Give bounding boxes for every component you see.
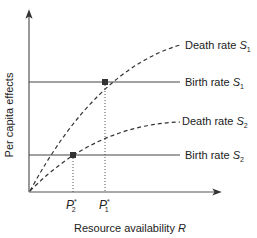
label-birth-rate-s2: Birth rate S2	[185, 150, 244, 163]
equilibrium-marker-s2	[70, 152, 76, 158]
death-rate-s2-curve	[30, 122, 180, 191]
label-birth-rate-s1: Birth rate S1	[185, 77, 244, 90]
label-death-rate-s1: Death rate S1	[185, 40, 251, 53]
label-death-rate-s2: Death rate S2	[182, 116, 248, 129]
equilibrium-marker-s1	[102, 79, 108, 85]
label-p1-star: P*1	[99, 198, 109, 213]
x-axis-label: Resource availability R	[74, 222, 186, 234]
y-axis-label: Per capita effects	[3, 73, 15, 158]
label-p2-star: P*2	[66, 198, 76, 213]
